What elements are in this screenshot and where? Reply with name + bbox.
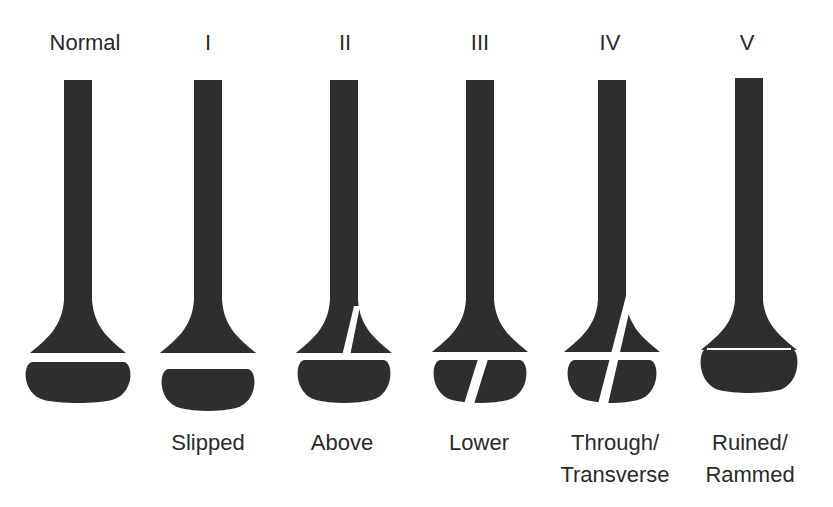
label-normal: Normal (50, 30, 121, 56)
bone-type-4 (564, 80, 660, 404)
description-ruined-line1: Ruined/ (712, 427, 788, 459)
description-slipped: Slipped (171, 427, 244, 459)
label-type-2: II (339, 30, 351, 56)
description-through-line1: Through/ (571, 427, 659, 459)
description-rammed-line2: Rammed (705, 459, 794, 491)
bone-type-1 (160, 80, 256, 411)
salter-harris-figure (0, 0, 833, 507)
label-type-4: IV (600, 30, 621, 56)
bone-type-2 (296, 80, 392, 403)
description-lower: Lower (449, 427, 509, 459)
label-type-1: I (205, 30, 211, 56)
description-above: Above (311, 427, 373, 459)
bone-normal (26, 80, 131, 403)
label-type-3: III (471, 30, 489, 56)
description-transverse-line2: Transverse (560, 459, 669, 491)
label-type-5: V (740, 30, 755, 56)
bone-type-3 (432, 80, 528, 404)
bone-type-5 (701, 78, 798, 393)
